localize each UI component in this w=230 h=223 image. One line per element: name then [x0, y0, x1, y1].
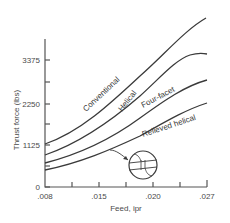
label-relieved-helical: Relieved helical [141, 113, 197, 139]
y-axis-title: Thrust force (lbs) [12, 89, 21, 150]
thrust-force-chart: 0 1125 2250 3375 .008 .015 .020 .027 Fee… [0, 0, 230, 223]
curve-relieved-helical [45, 103, 207, 170]
y-tick-1125: 1125 [23, 141, 41, 150]
y-tick-0: 0 [36, 183, 41, 192]
drill-point-inset-icon [129, 151, 157, 179]
y-ticks [45, 60, 50, 187]
x-axis-title: Feed, ipr [110, 204, 142, 213]
x-tick-008: .008 [37, 192, 53, 201]
y-tick-3375: 3375 [22, 56, 40, 65]
x-tick-020: .020 [145, 192, 161, 201]
y-tick-2250: 2250 [22, 100, 40, 109]
x-ticks [72, 180, 207, 187]
x-tick-027: .027 [199, 192, 215, 201]
inset-pointer-arrow-icon [110, 150, 128, 160]
x-tick-015: .015 [91, 192, 107, 201]
